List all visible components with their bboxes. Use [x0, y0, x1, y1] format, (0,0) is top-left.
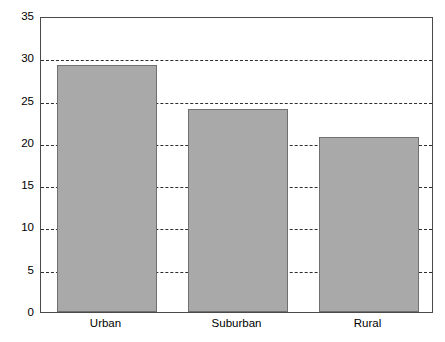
bar	[188, 109, 288, 312]
bar	[319, 137, 419, 312]
x-axis-tick-label: Rural	[354, 318, 381, 330]
plot-area	[40, 17, 433, 313]
y-axis-tick-label: 25	[4, 96, 34, 108]
bar-chart: 05101520253035 UrbanSuburbanRural	[0, 0, 445, 342]
y-axis-tick-label: 10	[4, 222, 34, 234]
y-axis-tick-label: 5	[4, 265, 34, 277]
y-axis-tick-label: 20	[4, 138, 34, 150]
y-axis-tick-label: 35	[4, 11, 34, 23]
y-axis-tick-label: 15	[4, 180, 34, 192]
y-axis-tick-label: 30	[4, 53, 34, 65]
bar	[57, 65, 157, 312]
x-axis-tick-label: Urban	[90, 318, 121, 330]
y-axis-tick-label: 0	[4, 307, 34, 319]
bars-group	[41, 18, 432, 312]
x-axis: UrbanSuburbanRural	[0, 318, 445, 338]
x-axis-tick-label: Suburban	[212, 318, 262, 330]
